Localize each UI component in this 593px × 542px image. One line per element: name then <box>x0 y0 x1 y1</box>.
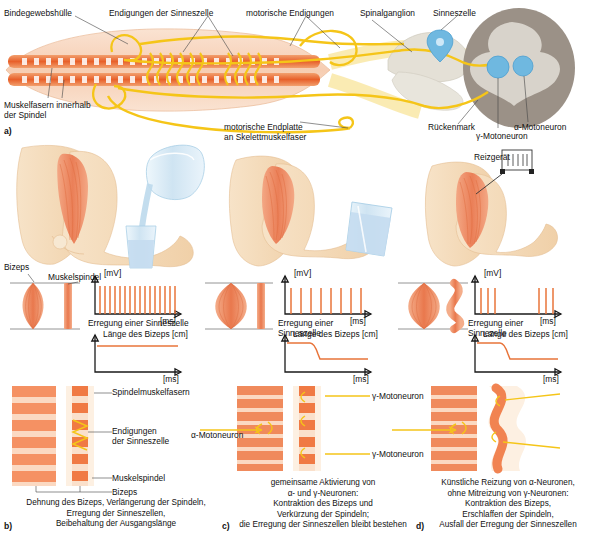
label-spinal-cord: Rückenmark <box>428 122 475 132</box>
axis-label-ms-d2: [ms] <box>543 374 559 384</box>
glass-c <box>346 202 392 256</box>
panel-id-d: d) <box>416 521 424 531</box>
jug <box>146 145 204 199</box>
label-motor-endings: motorische Endigungen <box>246 8 334 18</box>
label-intrafusal-fibers: Muskelfasern innerhalb der Spindel <box>4 100 91 120</box>
spindle-sketch-b <box>10 283 80 329</box>
alpha-motoneuron-soma <box>513 56 533 76</box>
arm-c <box>229 156 392 266</box>
label-spindelmuskelfasern: Spindelmuskelfasern <box>112 387 190 397</box>
axis-label-ms-b2: [ms] <box>163 374 179 384</box>
caption-c: gemeinsame Aktivierung von α- und γ-Neur… <box>232 478 414 531</box>
caption-b: Dehnung des Bizeps, Verlängerung der Spi… <box>8 498 224 530</box>
label-sense-cell: Sinneszelle <box>433 8 476 18</box>
alpha-leader-c <box>200 396 370 454</box>
axis-label-mv-c: [mV] <box>294 268 311 278</box>
graph-title-b-length: Länge des Bizeps [cm] <box>103 329 188 339</box>
label-muskelspindel-bottom: Muskelspindel <box>112 473 165 483</box>
spike-train-d <box>481 288 553 314</box>
fiber-block-c <box>200 386 370 471</box>
arm-b <box>17 145 205 268</box>
graph-d-length <box>472 335 561 375</box>
graph-c-excitation <box>282 276 371 317</box>
spindle-sketch-d <box>398 283 468 329</box>
graph-b-excitation <box>92 276 181 317</box>
panel-id-a: a) <box>4 126 12 136</box>
graph-title-b-excitation: Erregung einer Sinneszelle <box>88 318 189 328</box>
spindle-sketch-c <box>205 283 273 329</box>
graph-d-excitation <box>472 276 561 317</box>
fiber-block-b <box>12 386 94 486</box>
label-sensory-endings: Endigungen der Sinneszelle <box>109 8 213 18</box>
motor-end-plate <box>339 118 353 128</box>
length-trace-d <box>477 343 558 359</box>
label-reizgeraet: Reizgerät <box>474 152 510 162</box>
graph-title-d-length: Länge des Bizeps [cm] <box>483 329 568 339</box>
caption-d: Künstliche Reizung von α-Neuronen, ohne … <box>426 478 590 531</box>
label-spinal-ganglion: Spinalganglion <box>360 8 415 18</box>
label-gamma-motoneuron-c-bottom: γ-Motoneuron <box>372 449 424 459</box>
graph-c-length <box>282 335 371 375</box>
arm-d <box>425 150 557 266</box>
spike-train-b <box>100 286 175 314</box>
label-connective-sheath: Bindegewebshülle <box>4 8 72 18</box>
panel-id-c: c) <box>222 521 230 531</box>
axis-label-mv-b: [mV] <box>104 268 121 278</box>
label-alpha-motoneuron-c: α-Motoneuron <box>191 430 243 440</box>
graph-b-length <box>92 335 181 375</box>
axis-label-ms-c2: [ms] <box>353 374 369 384</box>
label-endigungen-sinneszelle: Endigungen der Sinneszelle <box>112 426 169 446</box>
graph-title-c-length: Länge des Bizeps [cm] <box>293 329 378 339</box>
axis-label-mv-d: [mV] <box>484 268 501 278</box>
label-gamma-motoneuron-c-top: γ-Motoneuron <box>372 391 424 401</box>
length-trace-c <box>287 343 368 359</box>
spike-train-c <box>291 288 361 314</box>
label-alpha-motoneuron-a: α-Motoneuron <box>514 122 566 132</box>
gamma-motoneuron-soma <box>487 56 509 78</box>
slack-spindle <box>450 283 460 329</box>
label-bizeps-bottom: Bizeps <box>112 487 137 497</box>
